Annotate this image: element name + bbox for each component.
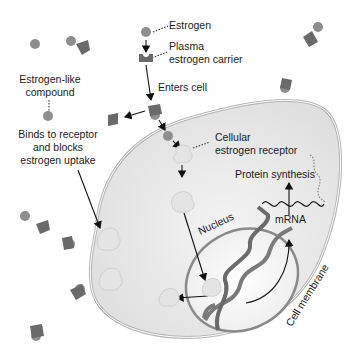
label-cellular-receptor-line2: estrogen receptor bbox=[215, 144, 297, 156]
label-binds-line1: Binds to receptor bbox=[2, 128, 114, 140]
estrogen-diagram: Estrogen Plasma estrogen carrier Enters … bbox=[0, 0, 356, 363]
label-estrogen: Estrogen bbox=[169, 19, 211, 31]
label-protein-synthesis: Protein synthesis bbox=[235, 168, 315, 180]
label-cellular-receptor-line1: Cellular bbox=[215, 131, 251, 143]
label-mrna: mRNA bbox=[275, 213, 306, 225]
label-enters-cell: Enters cell bbox=[158, 81, 207, 93]
label-binds-line3: estrogen uptake bbox=[2, 154, 114, 166]
label-estrogen-like-line1: Estrogen-like bbox=[10, 73, 90, 85]
label-plasma-carrier-line1: Plasma bbox=[169, 40, 204, 52]
label-plasma-carrier-line2: estrogen carrier bbox=[169, 53, 243, 65]
label-binds-line2: and blocks bbox=[2, 141, 114, 153]
label-estrogen-like-line2: compound bbox=[10, 86, 90, 98]
